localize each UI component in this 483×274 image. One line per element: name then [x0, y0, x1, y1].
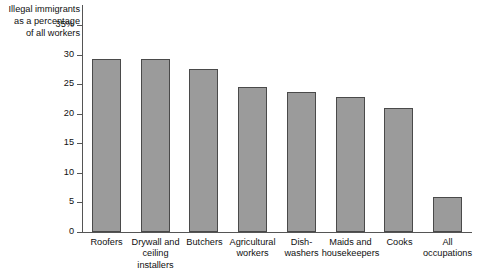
bar	[189, 69, 218, 232]
y-tick-label: 25	[28, 79, 74, 88]
x-axis-category-label: All occupations	[416, 237, 479, 260]
y-tick-mark	[77, 114, 82, 115]
y-tick-mark	[77, 55, 82, 56]
y-tick-mark	[77, 232, 82, 233]
y-tick-mark	[77, 143, 82, 144]
y-tick-label: 15	[28, 138, 74, 147]
bar-chart: Illegal immigrants as a percentage of al…	[0, 0, 483, 274]
bar	[336, 97, 365, 232]
y-tick-label: 10	[28, 168, 74, 177]
y-tick-label: 20	[28, 109, 74, 118]
y-axis-line	[82, 5, 83, 233]
bar	[384, 108, 413, 232]
bar	[238, 87, 267, 232]
x-axis-line	[82, 232, 472, 233]
y-tick-label: 5	[28, 197, 74, 206]
bar	[141, 59, 170, 232]
y-tick-label: 0	[28, 227, 74, 236]
y-tick-mark	[77, 202, 82, 203]
y-tick-mark	[77, 173, 82, 174]
y-tick-mark	[77, 25, 82, 26]
y-tick-mark	[77, 84, 82, 85]
bar	[92, 59, 121, 232]
bar	[287, 92, 316, 232]
y-tick-label: 30	[28, 50, 74, 59]
y-tick-label: 35%	[28, 20, 74, 29]
bar	[433, 197, 462, 232]
